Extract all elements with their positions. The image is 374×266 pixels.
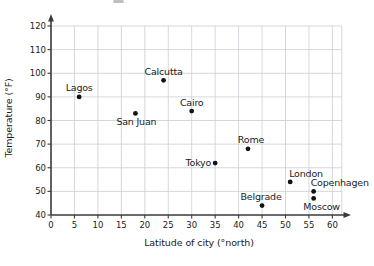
x-axis-title: Latitude of city (°north) xyxy=(144,238,254,248)
data-point-calcutta xyxy=(161,78,166,83)
x-tick-label: 60 xyxy=(327,220,338,230)
x-tick-label: 55 xyxy=(304,220,315,230)
x-axis-arrow xyxy=(344,212,352,218)
x-tick-label: 30 xyxy=(186,220,197,230)
city-label-rome: Rome xyxy=(238,135,264,145)
y-tick-label: 120 xyxy=(30,21,46,31)
x-tick-label: 40 xyxy=(233,220,244,230)
x-tick-label: 35 xyxy=(210,220,221,230)
city-label-copenhagen: Copenhagen xyxy=(311,178,369,188)
data-point-belgrade xyxy=(260,203,265,208)
y-tick-label: 70 xyxy=(35,139,46,149)
data-point-cairo xyxy=(189,109,194,114)
y-tick-label: 60 xyxy=(35,163,46,173)
x-tick-label: 20 xyxy=(139,220,150,230)
y-tick-label: 80 xyxy=(35,116,46,126)
x-tick-label: 50 xyxy=(280,220,291,230)
x-tick-label: 25 xyxy=(163,220,174,230)
data-point-rome xyxy=(246,146,251,151)
city-label-lagos: Lagos xyxy=(66,83,93,93)
city-label-belgrade: Belgrade xyxy=(241,192,282,202)
x-tick-label: 10 xyxy=(92,220,103,230)
city-label-calcutta: Calcutta xyxy=(145,67,183,77)
city-label-tokyo: Tokyo xyxy=(186,158,212,168)
data-point-copenhagen xyxy=(311,189,316,194)
x-tick-label: 5 xyxy=(72,220,77,230)
y-tick-label: 90 xyxy=(35,92,46,102)
y-tick-label: 110 xyxy=(30,45,46,55)
temperature-vs-latitude-scatter-plot: Latitude of city (°north) Temperature (°… xyxy=(0,0,374,266)
data-point-lagos xyxy=(77,94,82,99)
city-label-cairo: Cairo xyxy=(180,98,204,108)
city-label-moscow: Moscow xyxy=(303,202,340,212)
y-tick-label: 40 xyxy=(35,210,46,220)
data-point-london xyxy=(288,180,293,185)
city-label-san-juan: San Juan xyxy=(116,117,156,127)
x-tick-label: 45 xyxy=(257,220,268,230)
x-tick-label: 0 xyxy=(48,220,53,230)
data-point-tokyo xyxy=(213,161,218,166)
y-axis-title: Temperature (°F) xyxy=(4,78,14,157)
y-axis-arrow xyxy=(48,14,54,22)
y-tick-label: 100 xyxy=(30,68,46,78)
x-tick-label: 15 xyxy=(116,220,127,230)
y-tick-label: 50 xyxy=(35,186,46,196)
